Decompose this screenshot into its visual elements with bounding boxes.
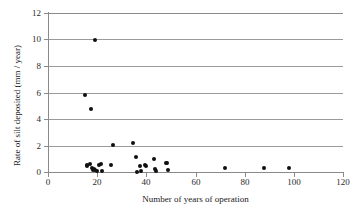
- data-point: [99, 162, 103, 166]
- y-axis-title: Rate of silt deposited (mm / year): [12, 45, 22, 166]
- y-tick-mark: [44, 146, 48, 147]
- data-point: [223, 166, 227, 170]
- x-tick-label-120: 120: [328, 178, 358, 187]
- y-axis-line: [48, 12, 49, 173]
- x-tick-label-20: 20: [82, 178, 112, 187]
- data-point: [144, 164, 148, 168]
- data-point: [135, 170, 139, 174]
- y-tick-label-8: 8: [19, 62, 41, 71]
- y-tick-label-10: 10: [19, 35, 41, 44]
- x-tick-label-80: 80: [230, 178, 260, 187]
- gridline-4: [48, 119, 343, 120]
- gridline-12: [48, 13, 343, 14]
- y-tick-mark: [44, 13, 48, 14]
- data-point: [131, 141, 135, 145]
- data-point: [93, 38, 97, 42]
- gridline-8: [48, 66, 343, 67]
- x-tick-label-40: 40: [131, 178, 161, 187]
- y-tick-label-6: 6: [19, 89, 41, 98]
- y-tick-mark: [44, 39, 48, 40]
- data-point: [89, 107, 93, 111]
- y-tick-label-2: 2: [19, 142, 41, 151]
- data-point: [154, 169, 158, 173]
- data-point: [287, 166, 291, 170]
- x-tick-label-100: 100: [279, 178, 309, 187]
- data-point: [165, 161, 169, 165]
- x-tick-label-0: 0: [33, 178, 63, 187]
- gridline-6: [48, 93, 343, 94]
- y-tick-mark: [44, 66, 48, 67]
- y-tick-mark: [44, 93, 48, 94]
- scatter-chart: 12 10 8 6 4 2 0 0 20 40 60 80 100 120 Nu…: [0, 0, 361, 211]
- y-tick-label-12: 12: [19, 9, 41, 18]
- data-point: [109, 163, 113, 167]
- data-point: [152, 157, 156, 161]
- x-axis-title: Number of years of operation: [48, 194, 343, 204]
- data-point: [83, 93, 87, 97]
- data-point: [262, 166, 266, 170]
- y-tick-mark: [44, 119, 48, 120]
- x-tick-label-60: 60: [181, 178, 211, 187]
- gridline-2: [48, 146, 343, 147]
- data-point: [100, 169, 104, 173]
- y-tick-label-0: 0: [19, 168, 41, 177]
- data-point: [138, 164, 142, 168]
- data-point: [95, 169, 99, 173]
- data-point: [134, 155, 138, 159]
- y-tick-label-4: 4: [19, 115, 41, 124]
